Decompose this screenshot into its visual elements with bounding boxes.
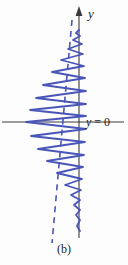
y-axis-label: y	[88, 7, 94, 20]
panel-caption: (b)	[0, 243, 128, 255]
y-axis-arrowhead-icon	[76, 6, 83, 16]
y-equals-zero-label: y = 0	[86, 116, 110, 128]
physics-figure-panel-b: y y = 0 (b)	[0, 0, 128, 265]
y-zero-value: = 0	[91, 115, 110, 129]
figure-canvas	[0, 0, 128, 265]
